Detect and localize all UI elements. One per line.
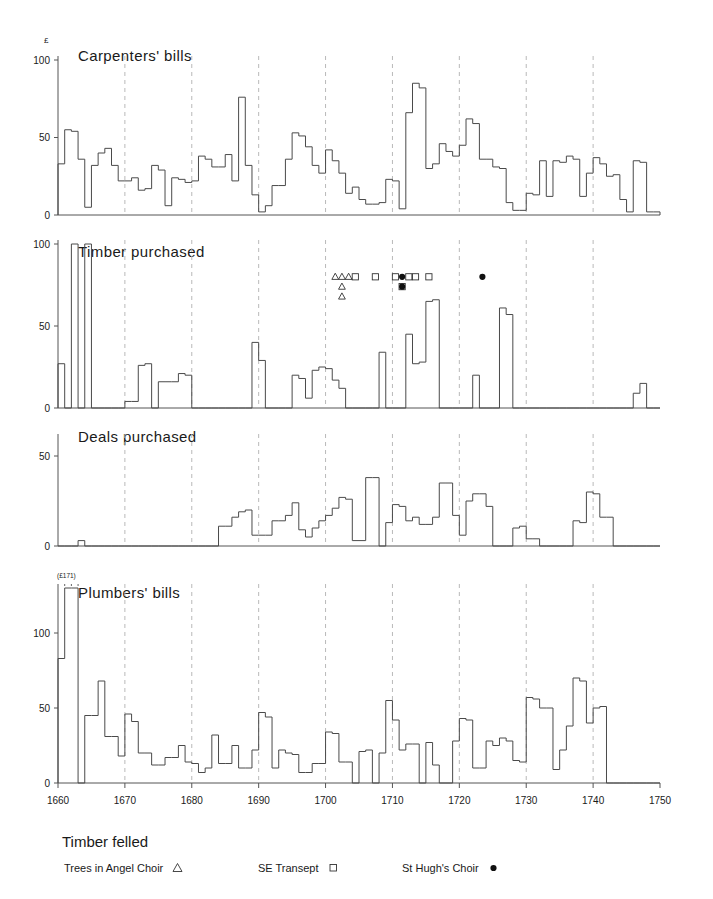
triangle-open-marker (345, 273, 352, 279)
x-tick-label: 1660 (33, 795, 83, 806)
x-tick-label: 1710 (367, 795, 417, 806)
legend-label-se-transept: SE Transept (258, 862, 319, 874)
legend-entry-st-hughs-choir: St Hugh's Choir (402, 862, 500, 874)
x-tick-label: 1690 (234, 795, 284, 806)
legend-entry-angel-choir: Trees in Angel Choir (64, 862, 184, 874)
triangle-open-marker (339, 273, 346, 279)
circle-filled-marker (399, 284, 405, 290)
x-tick-label: 1680 (167, 795, 217, 806)
x-tick-label: 1750 (635, 795, 685, 806)
y-tick-label: 0 (44, 778, 50, 789)
circle-filled-marker (399, 274, 405, 280)
plot-area-timber-purchased: 050100 (0, 236, 713, 421)
panel-deals-purchased: 050 (0, 424, 713, 559)
y-tick-label: 100 (33, 628, 50, 639)
plot-area-carpenters-bills: 050100 (0, 52, 713, 227)
triangle-open-marker (339, 293, 346, 299)
y-tick-label: 50 (39, 703, 51, 714)
square-open-marker (406, 274, 412, 280)
legend-label-angel-choir: Trees in Angel Choir (64, 862, 163, 874)
square-open-marker (372, 274, 378, 280)
square-open-marker (392, 274, 398, 280)
triangle-open-marker (332, 273, 339, 279)
data-series-outline (58, 588, 660, 783)
square-open-marker (426, 274, 432, 280)
triangle-open-icon (172, 862, 184, 873)
plot-area-deals-purchased: 050 (0, 424, 713, 559)
y-tick-label: 100 (33, 55, 50, 66)
y-tick-label: 50 (39, 451, 51, 462)
y-tick-label: 0 (44, 403, 50, 414)
x-tick-label: 1720 (434, 795, 484, 806)
y-tick-label: 0 (44, 210, 50, 221)
circle-filled-icon (488, 862, 500, 873)
plot-area-plumbers-bills: 050100 (0, 578, 713, 798)
legend-entry-se-transept: SE Transept (258, 862, 340, 874)
square-open-marker (352, 274, 358, 280)
figure-root: £ Carpenters' bills 050100 Timber purcha… (0, 0, 713, 899)
panel-carpenters-bills: 050100 (0, 52, 713, 227)
x-tick-label: 1700 (301, 795, 351, 806)
y-unit-label-panel-1: £ (44, 36, 48, 45)
square-open-marker (412, 274, 418, 280)
x-tick-label: 1740 (568, 795, 618, 806)
legend-label-st-hughs-choir: St Hugh's Choir (402, 862, 479, 874)
legend-title: Timber felled (62, 833, 148, 850)
data-series-outline (58, 83, 660, 215)
panel-plumbers-bills: 050100 (0, 578, 713, 798)
y-tick-label: 50 (39, 321, 51, 332)
panel-timber-purchased: 050100 (0, 236, 713, 421)
square-open-icon (328, 862, 340, 873)
y-tick-label: 100 (33, 239, 50, 250)
y-tick-label: 50 (39, 132, 51, 143)
x-tick-label: 1730 (501, 795, 551, 806)
data-series-outline (58, 244, 660, 408)
circle-filled-marker (479, 274, 485, 280)
y-tick-label: 0 (44, 541, 50, 552)
x-tick-label: 1670 (100, 795, 150, 806)
triangle-open-marker (339, 283, 346, 289)
data-series-outline (58, 478, 660, 546)
